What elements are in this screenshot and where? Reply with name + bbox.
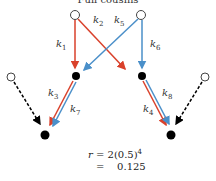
label-k8: k8 [162,87,173,101]
label-k3: k3 [48,87,59,101]
label-k5: k5 [114,14,125,28]
founder-left-node [71,11,80,20]
child-left-node [72,72,80,80]
label-k1: k1 [56,38,67,52]
child-right-node [138,72,146,80]
founder-right-node [137,11,146,20]
cousin-left-node [41,131,50,140]
label-k7: k7 [70,103,81,117]
label-k6: k6 [150,38,161,52]
cousin-right-node [167,131,176,140]
spouse-right-node [201,73,209,81]
spouse-left-node [7,73,15,81]
relatedness-formula: r = 2(0.5)4 = 0.125 [88,146,146,173]
label-k2: k2 [93,14,104,28]
label-k4: k4 [143,103,154,117]
